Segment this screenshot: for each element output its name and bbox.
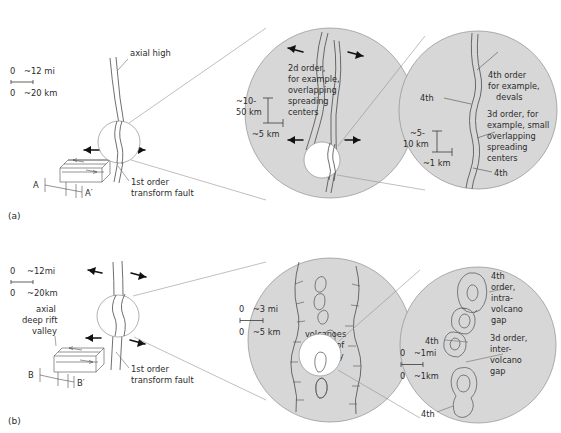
ridge-a-lower-segment-west <box>114 160 118 182</box>
scale-a-miles: ~12 mi <box>24 66 55 76</box>
figure-canvas: 0 ~12 mi 0 ~20 km <box>0 0 561 433</box>
ridge-b-lower-east <box>120 334 122 370</box>
zoom-b2-order3-line-2: volcano <box>490 355 522 365</box>
zoom-a1-nested-marker-circle <box>304 142 340 178</box>
section-b-tick-start <box>40 368 58 382</box>
ridge-segmentation-diagram: 0 ~12 mi 0 ~20 km <box>0 0 561 433</box>
map-b-zoom-marker-circle <box>97 295 139 337</box>
label-1st-order-fault-line1: 1st order <box>131 177 170 187</box>
zoom-b1-scale-km-zero: 0 <box>239 327 244 337</box>
zoom-a1-label-line-3: spreading <box>288 96 329 106</box>
zoom-a1-label-line-2: overlapping <box>288 85 337 95</box>
zoom-a2-order3-line-0: 3d order, for <box>487 109 539 119</box>
section-a-label-start: A <box>33 180 39 190</box>
scale-a-km: ~20 km <box>24 88 57 98</box>
scale-b-miles: ~12mi <box>27 266 55 276</box>
panel-a-zoom2: 4th order for example, devals 3d order, … <box>399 31 557 189</box>
cone-b1-upper <box>133 262 266 296</box>
panel-a-tag: (a) <box>8 211 21 221</box>
panel-b-zoom1: 0 ~3 mi 0 ~5 km volcanoes in floor of ri… <box>239 258 412 422</box>
label-axial-deep-rift-line2: deep rift <box>22 315 58 325</box>
label-axial-high: axial high <box>130 48 171 58</box>
zoom-b2-order3-line-0: 3d order, <box>490 333 527 343</box>
zoom-b2-order4-line-3: volcano <box>491 304 523 314</box>
zoom-b2-order4-line-1: order, <box>491 282 515 292</box>
block-a-side-face <box>102 160 110 182</box>
zoom-a2-scale-vert-2: 10 km <box>403 139 429 149</box>
zoom-b1-scale-miles: ~3 mi <box>253 304 278 314</box>
zoom-b2-scale-km-zero: 0 <box>400 371 405 381</box>
leader-axial-high <box>118 59 128 70</box>
zoom-a1-scale-vert-2: 50 km <box>236 107 262 117</box>
zoom-b2-tick-mid-label: 4th <box>425 336 439 346</box>
zoom-a2-scale-vert-1: ~5- <box>410 128 425 138</box>
zoom-b1-scale-km: ~5 km <box>253 327 280 337</box>
scale-a-miles-zero: 0 <box>10 66 15 76</box>
leader-b-fault <box>116 352 129 368</box>
zoom-a1-scale-horiz: ~5 km <box>252 129 279 139</box>
section-a-label-end: A′ <box>85 188 93 198</box>
section-b-label-end: B′ <box>77 378 85 388</box>
zoom-a1-label-line-1: for example, <box>288 74 340 84</box>
zoom-b2-tick-bottom-label: 4th <box>421 409 435 419</box>
panel-a-cross-section-block: A A′ <box>33 159 110 199</box>
panel-b-zoom2: 4th 4th 4th order, intra- volcano gap 3d… <box>400 267 556 423</box>
panel-b-cross-section-block: B B′ <box>28 347 104 388</box>
label-b-fault-line1: 1st order <box>131 364 170 374</box>
label-b-fault-line2: transform fault <box>131 375 194 385</box>
label-1st-order-fault-line2: transform fault <box>131 188 194 198</box>
zoom-a2-tick-bottom-label: 4th <box>494 168 508 178</box>
zoom-a2-order3-line-1: example, small <box>487 120 549 130</box>
scale-a-bar-glyph <box>11 80 33 84</box>
zoom-a2-scale-horiz: ~1 km <box>423 158 450 168</box>
ridge-b-lower-west <box>111 334 113 370</box>
zoom-a2-order3-line-3: spreading <box>487 142 528 152</box>
label-axial-deep-rift-line1: axial <box>36 304 56 314</box>
label-axial-deep-rift-line3: valley <box>32 326 57 336</box>
zoom-a1-label-line-4: centers <box>288 107 319 117</box>
scale-b-miles-zero: 0 <box>10 266 15 276</box>
zoom-a2-order3-line-4: centers <box>487 153 518 163</box>
panel-b-scale-bar: 0 ~12mi 0 ~20km <box>10 266 58 298</box>
zoom-b2-scale-miles: ~1mi <box>414 348 436 358</box>
zoom-b2-order4-line-0: 4th <box>491 271 505 281</box>
zoom-b1-scale-miles-zero: 0 <box>239 304 244 314</box>
zoom-b2-scale-miles-zero: 0 <box>400 348 405 358</box>
leader-b-rift-valley <box>55 336 56 346</box>
block-a-front-face <box>60 168 102 182</box>
panel-b-tag: (b) <box>8 416 21 426</box>
zoom-b2-order4-line-4: gap <box>491 315 506 325</box>
ridge-b-upper-east <box>122 261 123 295</box>
panel-a-scale-bar: 0 ~12 mi 0 ~20 km <box>10 66 57 98</box>
zoom-a1-label-line-0: 2d order, <box>288 63 325 73</box>
zoom-b1-nested-marker-circle <box>299 334 341 376</box>
zoom-b2-order4-line-2: intra- <box>491 293 513 303</box>
section-a-tick-end <box>66 186 82 198</box>
zoom-a2-order3-line-2: overlapping <box>487 131 536 141</box>
scale-b-km: ~20km <box>27 288 58 298</box>
map-a-zoom-marker-circle <box>98 121 140 163</box>
arrow-a-left-head <box>84 146 91 154</box>
section-b-tick-end <box>58 376 74 388</box>
zoom-b2-order3-line-1: inter- <box>490 344 512 354</box>
zoom-b2-order3-line-3: gap <box>490 366 505 376</box>
block-b-front-face <box>54 356 96 372</box>
arrow-b-bot-left-head <box>86 334 93 342</box>
ridge-a-upper-segment-west <box>110 58 119 124</box>
zoom-a2-order4-line-0: 4th order <box>488 70 527 80</box>
zoom-a2-order4-line-2: devals <box>496 92 523 102</box>
scale-b-bar-glyph <box>11 280 33 284</box>
panel-a-zoom1: ~10- 50 km ~5 km 2d order, for example, … <box>236 28 415 198</box>
panel-b: 0 ~12mi 0 ~20km axial deep rift valley <box>8 258 556 426</box>
zoom-b2-scale-km: ~1km <box>414 371 439 381</box>
zoom-a2-order4-line-1: for example, <box>488 81 540 91</box>
ridge-b-upper-west <box>113 262 114 296</box>
scale-b-km-zero: 0 <box>10 288 15 298</box>
panel-a: 0 ~12 mi 0 ~20 km <box>8 28 557 221</box>
section-a-tick-start <box>45 178 66 192</box>
section-b-label-start: B <box>28 370 34 380</box>
zoom-a1-scale-vert-1: ~10- <box>236 96 256 106</box>
spreading-arrows-b-top <box>88 267 146 280</box>
zoom-a2-tick-left-label: 4th <box>420 93 434 103</box>
scale-a-km-zero: 0 <box>10 88 15 98</box>
